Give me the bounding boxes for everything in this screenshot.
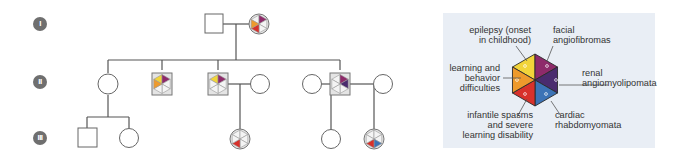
legend-label-learning: learning and behavior difficulties: [449, 63, 500, 93]
legend-spasms-line-1: infantile spasms: [463, 110, 533, 120]
legend-epilepsy-line-1: epilepsy (onset: [469, 25, 531, 35]
individual-ii-5-female: [303, 75, 322, 94]
legend-renal-line-1: renal: [582, 68, 657, 78]
legend-label-renal: renal angiomyolipomata: [582, 68, 657, 88]
legend-spasms-line-3: learning disability: [463, 130, 533, 140]
legend-label-epilepsy: epilepsy (onset in childhood): [469, 25, 531, 45]
phenotype-legend: epilepsy (onset in childhood) facial ang…: [443, 13, 655, 148]
legend-cardiac-line-1: cardiac: [555, 110, 621, 120]
legend-label-cardiac: cardiac rhabdomyomata: [555, 110, 621, 130]
legend-epilepsy-line-2: in childhood): [469, 35, 531, 45]
legend-learning-line-3: difficulties: [449, 83, 500, 93]
legend-hexagon: [512, 54, 557, 106]
legend-facial-line-1: facial: [553, 25, 611, 35]
individual-ii-6-male-affected: [330, 73, 350, 95]
legend-renal-line-2: angiomyolipomata: [582, 78, 657, 88]
individual-ii-2-male-affected: [152, 73, 172, 95]
individual-iii-5-female-affected: [364, 129, 384, 149]
individual-ii-3-male-affected: [208, 73, 228, 95]
legend-label-facial: facial angiofibromas: [553, 25, 611, 45]
individual-iii-3-female-affected: [230, 129, 250, 149]
legend-learning-line-1: learning and: [449, 63, 500, 73]
individual-iii-1-male: [78, 128, 97, 147]
individual-ii-7-female: [374, 75, 393, 94]
legend-learning-line-2: behavior: [449, 73, 500, 83]
individual-ii-1-female: [98, 74, 118, 94]
legend-spasms-line-2: and severe: [463, 120, 533, 130]
individual-iii-2-female: [120, 129, 139, 148]
individual-iii-4-female: [322, 130, 341, 149]
individual-i-2-female-affected: [249, 14, 269, 34]
legend-facial-line-2: angiofibromas: [553, 35, 611, 45]
individual-i-1-male: [205, 14, 223, 33]
legend-label-spasms: infantile spasms and severe learning dis…: [463, 110, 533, 140]
legend-cardiac-line-2: rhabdomyomata: [555, 120, 621, 130]
individual-ii-4-female: [251, 75, 270, 94]
pedigree-chart: [0, 0, 440, 160]
